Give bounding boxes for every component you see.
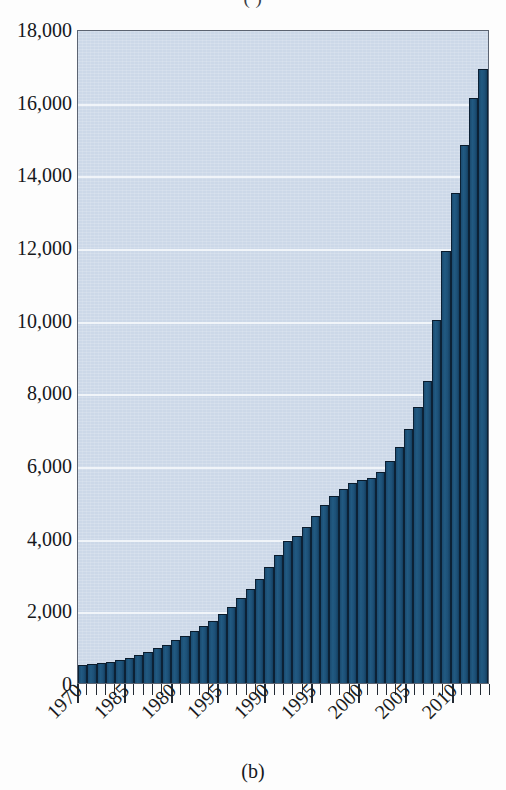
bar bbox=[469, 98, 478, 683]
title-remnant-text: ( ) bbox=[244, 0, 263, 5]
figure-caption: (b) bbox=[0, 760, 506, 782]
bar bbox=[460, 145, 469, 683]
bar bbox=[97, 663, 106, 683]
y-axis-tick-label: 16,000 bbox=[0, 93, 72, 113]
bar bbox=[134, 655, 143, 683]
x-axis-minor-tick bbox=[283, 684, 284, 695]
bar bbox=[311, 516, 320, 683]
bar bbox=[153, 648, 162, 683]
bar bbox=[125, 658, 134, 683]
plot-area bbox=[77, 30, 489, 684]
bar bbox=[87, 664, 96, 683]
bar bbox=[376, 472, 385, 683]
bar bbox=[339, 489, 348, 683]
x-axis-minor-tick bbox=[143, 684, 144, 695]
x-axis-minor-tick bbox=[320, 684, 321, 695]
x-axis-minor-tick bbox=[227, 684, 228, 695]
bar bbox=[357, 480, 366, 683]
y-axis-tick-label: 8,000 bbox=[0, 383, 72, 403]
cut-off-title-remnant: ( ) bbox=[0, 0, 506, 14]
x-axis-minor-tick bbox=[470, 684, 471, 695]
bar bbox=[246, 589, 255, 683]
x-axis-minor-tick bbox=[367, 684, 368, 695]
bar bbox=[478, 69, 487, 683]
x-axis-minor-tick bbox=[423, 684, 424, 695]
bar bbox=[395, 447, 404, 683]
y-axis-tick-label: 4,000 bbox=[0, 529, 72, 549]
bar bbox=[292, 536, 301, 683]
bar bbox=[78, 665, 87, 683]
bar bbox=[190, 631, 199, 683]
bar bbox=[199, 626, 208, 683]
x-axis-minor-tick bbox=[480, 684, 481, 695]
y-axis-tick-label: 10,000 bbox=[0, 311, 72, 331]
bar bbox=[274, 555, 283, 683]
bar bbox=[236, 598, 245, 683]
bar bbox=[143, 652, 152, 683]
bar bbox=[423, 381, 432, 683]
x-axis-minor-tick bbox=[414, 684, 415, 695]
bar bbox=[255, 579, 264, 683]
bar bbox=[329, 496, 338, 683]
y-axis-tick-label: 18,000 bbox=[0, 20, 72, 40]
bar-series bbox=[78, 31, 488, 683]
x-axis-minor-tick bbox=[180, 684, 181, 695]
bar bbox=[208, 621, 217, 683]
x-axis-minor-tick bbox=[236, 684, 237, 695]
x-axis-minor-tick bbox=[377, 684, 378, 695]
bar bbox=[106, 662, 115, 683]
bar bbox=[171, 640, 180, 683]
bar bbox=[441, 251, 450, 683]
bar bbox=[348, 483, 357, 683]
bar bbox=[451, 193, 460, 684]
bar bbox=[180, 636, 189, 683]
bar bbox=[404, 429, 413, 683]
x-axis-minor-tick bbox=[274, 684, 275, 695]
x-axis-labels: 197019851980199519901995200020052010 bbox=[0, 700, 506, 762]
bar bbox=[385, 461, 394, 683]
y-axis-tick-label: 12,000 bbox=[0, 238, 72, 258]
x-axis-minor-tick bbox=[489, 684, 490, 695]
bar bbox=[227, 607, 236, 683]
bar bbox=[432, 320, 441, 683]
bar bbox=[320, 505, 329, 683]
y-axis-tick-label: 14,000 bbox=[0, 165, 72, 185]
x-axis-minor-tick bbox=[461, 684, 462, 695]
bar bbox=[283, 541, 292, 683]
bar bbox=[413, 407, 422, 683]
y-axis-tick-label: 6,000 bbox=[0, 456, 72, 476]
x-axis-minor-tick bbox=[189, 684, 190, 695]
x-axis-minor-tick bbox=[133, 684, 134, 695]
bar bbox=[367, 478, 376, 683]
x-axis-minor-tick bbox=[86, 684, 87, 695]
bar bbox=[264, 567, 273, 683]
y-axis-tick-label: 2,000 bbox=[0, 601, 72, 621]
x-axis-minor-tick bbox=[330, 684, 331, 695]
y-axis: 18,00016,00014,00012,00010,0008,0006,000… bbox=[0, 0, 72, 790]
bar bbox=[302, 527, 311, 683]
x-axis-minor-tick bbox=[96, 684, 97, 695]
figure-page: ( ) 18,00016,00014,00012,00010,0008,0006… bbox=[0, 0, 506, 790]
bar bbox=[162, 645, 171, 684]
bar bbox=[218, 614, 227, 683]
